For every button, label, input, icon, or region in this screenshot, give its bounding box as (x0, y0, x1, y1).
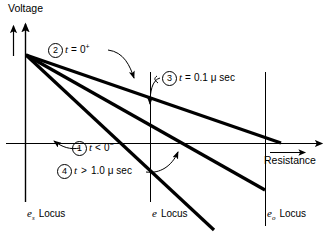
callout-4-value: 1.0 (91, 165, 105, 176)
locus-label-e: eLocus (152, 208, 188, 219)
axis-label-voltage: Voltage (8, 3, 43, 14)
axis-label-resistance: Resistance (264, 155, 316, 166)
callout-4-unit: μ sec (105, 165, 132, 176)
callout-3: 3t=0.1μ sec (162, 71, 235, 86)
callout-1-relation: < (92, 142, 104, 153)
callout-4-number: 4 (57, 164, 72, 179)
callout-3-value: 0.1 (194, 72, 208, 83)
callout-4-relation: > (77, 165, 91, 176)
locus-label-es: esLocus (27, 208, 65, 222)
callout-3-number: 3 (162, 71, 177, 86)
load-lines (26, 55, 281, 230)
locus-label-eo-text: Locus (275, 208, 306, 219)
callout-3-relation: = (182, 72, 194, 83)
callout-1-exponent: − (109, 141, 113, 148)
leader-callout-2 (108, 50, 134, 78)
callout-2: 2t=0+ (48, 43, 90, 58)
locus-label-e-text: Locus (157, 208, 188, 219)
callout-2-exponent: + (85, 43, 89, 50)
callout-2-number: 2 (48, 43, 63, 58)
callout-1: 1t<0− (72, 141, 114, 156)
load-line-t-zero-plus (26, 55, 281, 143)
diagram-svg (0, 0, 336, 236)
locus-label-es-text: Locus (35, 208, 66, 219)
callout-2-relation: = (68, 44, 80, 55)
callout-4: 4t>1.0μ sec (57, 164, 132, 179)
callout-3-unit: μ sec (208, 72, 235, 83)
figure-canvas: Voltage Resistance 2t=0+ 3t=0.1μ sec 1t<… (0, 0, 336, 236)
callout-1-number: 1 (72, 141, 87, 156)
locus-label-eo: eoLocus (267, 208, 306, 222)
